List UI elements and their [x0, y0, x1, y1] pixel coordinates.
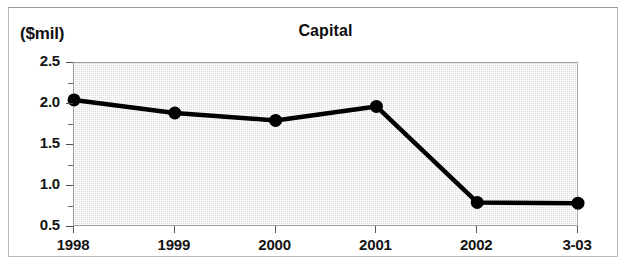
x-axis-tick-label: 3-03: [532, 236, 622, 253]
y-axis-tick-label: 1.0: [12, 175, 60, 192]
series-line: [74, 100, 578, 203]
y-axis-minor-tick: [68, 124, 73, 125]
x-axis-tick-label: 1999: [129, 236, 219, 253]
y-axis-major-tick: [66, 103, 73, 104]
y-axis-tick-label: 2.0: [12, 93, 60, 110]
x-axis-tick: [174, 226, 175, 233]
series-capital: [74, 63, 579, 227]
y-axis-tick-label: 0.5: [12, 216, 60, 233]
x-axis-tick-label: 2000: [230, 236, 320, 253]
data-point-marker: [269, 114, 282, 127]
x-axis-tick: [275, 226, 276, 233]
y-axis-major-tick: [66, 62, 73, 63]
x-axis-tick-label: 1998: [28, 236, 118, 253]
data-point-marker: [572, 197, 585, 210]
y-axis-tick-label: 1.5: [12, 134, 60, 151]
y-axis-minor-tick: [68, 206, 73, 207]
y-axis-major-tick: [66, 185, 73, 186]
y-axis-tick-label: 2.5: [12, 52, 60, 69]
data-point-marker: [168, 107, 181, 120]
y-axis-major-tick: [66, 226, 73, 227]
x-axis-tick-label: 2001: [330, 236, 420, 253]
x-axis-tick: [73, 226, 74, 233]
data-point-marker: [370, 100, 383, 113]
data-point-marker: [471, 196, 484, 209]
chart-figure: ($mil) Capital 2.52.01.51.00.51998199920…: [0, 0, 627, 263]
y-axis-minor-tick: [68, 165, 73, 166]
y-axis-major-tick: [66, 144, 73, 145]
x-axis-tick: [375, 226, 376, 233]
x-axis-tick: [577, 226, 578, 233]
x-axis-tick-label: 2002: [431, 236, 521, 253]
x-axis-tick: [476, 226, 477, 233]
y-axis-unit-label: ($mil): [20, 24, 64, 44]
chart-title: Capital: [73, 22, 578, 40]
data-point-marker: [68, 93, 81, 106]
plot-area: [73, 62, 578, 226]
y-axis-minor-tick: [68, 83, 73, 84]
